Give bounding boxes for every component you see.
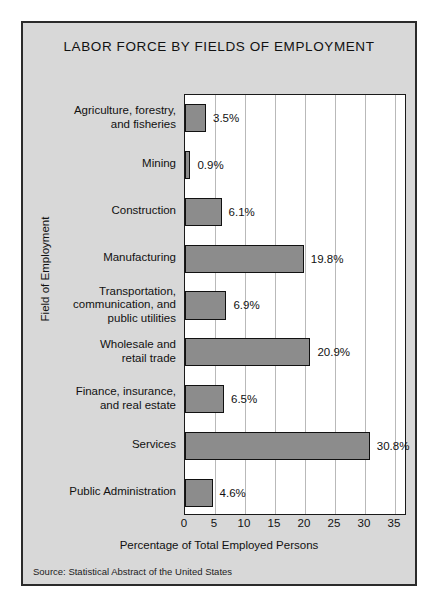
category-labels: Agriculture, forestry,and fisheriesMinin… (23, 94, 180, 515)
bar (185, 245, 304, 273)
bar-row: 19.8% (185, 245, 405, 273)
bar-row: 30.8% (185, 432, 405, 460)
bar (185, 432, 370, 460)
chart-figure: LABOR FORCE BY FIELDS OF EMPLOYMENT Fiel… (21, 21, 417, 586)
x-axis-ticks: 05101520253035 (184, 517, 406, 535)
bar (185, 198, 222, 226)
category-label: Transportation,communication, andpublic … (24, 284, 176, 325)
bar-value-label: 6.9% (233, 299, 259, 311)
category-label: Wholesale andretail trade (24, 338, 176, 365)
bar-row: 20.9% (185, 338, 405, 366)
x-tick-label: 15 (268, 517, 281, 529)
bar-row: 6.1% (185, 198, 405, 226)
bar-value-label: 4.6% (220, 487, 246, 499)
x-tick-label: 10 (238, 517, 251, 529)
x-tick-label: 25 (328, 517, 341, 529)
bar (185, 385, 224, 413)
bar-row: 6.5% (185, 385, 405, 413)
bar (185, 104, 206, 132)
bar-row: 4.6% (185, 479, 405, 507)
bar (185, 291, 226, 319)
bar-value-label: 6.1% (229, 206, 255, 218)
category-label: Public Administration (24, 485, 176, 499)
bar (185, 151, 190, 179)
source-note: Source: Statistical Abstract of the Unit… (33, 566, 232, 577)
x-tick-label: 35 (388, 517, 401, 529)
bar-value-label: 6.5% (231, 393, 257, 405)
bar-row: 6.9% (185, 291, 405, 319)
bar (185, 338, 310, 366)
bar-value-label: 0.9% (197, 159, 223, 171)
category-label: Mining (24, 157, 176, 171)
bar-value-label: 19.8% (311, 253, 344, 265)
bar-value-label: 30.8% (377, 440, 410, 452)
bar-series: 3.5%0.9%6.1%19.8%6.9%20.9%6.5%30.8%4.6% (185, 95, 405, 514)
category-label: Manufacturing (24, 251, 176, 265)
chart-title: LABOR FORCE BY FIELDS OF EMPLOYMENT (23, 39, 415, 54)
x-tick-label: 0 (181, 517, 187, 529)
x-tick-label: 5 (211, 517, 217, 529)
category-label: Finance, insurance,and real estate (24, 385, 176, 412)
plot-area: 3.5%0.9%6.1%19.8%6.9%20.9%6.5%30.8%4.6% (184, 94, 406, 515)
category-label: Construction (24, 204, 176, 218)
bar-row: 3.5% (185, 104, 405, 132)
category-label: Agriculture, forestry,and fisheries (24, 104, 176, 131)
x-tick-label: 30 (358, 517, 371, 529)
category-label: Services (24, 438, 176, 452)
bar (185, 479, 213, 507)
bar-value-label: 20.9% (317, 346, 350, 358)
bar-row: 0.9% (185, 151, 405, 179)
bar-value-label: 3.5% (213, 112, 239, 124)
x-axis-label: Percentage of Total Employed Persons (23, 539, 415, 551)
x-tick-label: 20 (298, 517, 311, 529)
